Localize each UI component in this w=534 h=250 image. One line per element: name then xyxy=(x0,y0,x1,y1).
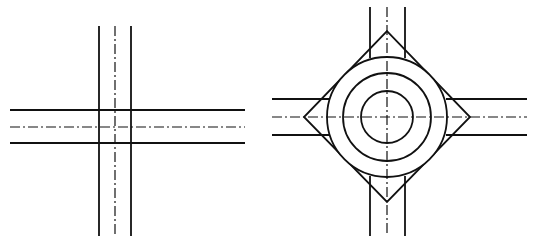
plain-intersection xyxy=(10,26,245,236)
vertical-road xyxy=(99,26,131,236)
roundabout-intersection xyxy=(272,7,527,236)
diagram-canvas xyxy=(0,0,534,250)
horizontal-road xyxy=(10,110,245,143)
